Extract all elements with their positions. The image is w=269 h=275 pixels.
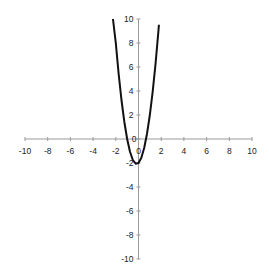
y-tick-label: -4 [126,182,134,192]
y-tick-label: -8 [126,230,134,240]
x-tick-label: 2 [159,146,164,156]
y-tick-label: -10 [121,254,134,264]
y-tick-label: 6 [129,62,134,72]
x-tick-label: -6 [67,146,75,156]
x-tick-label: 10 [247,146,257,156]
x-tick-label: -4 [89,146,97,156]
x-tick-label: -8 [44,146,52,156]
y-tick-label: -6 [126,206,134,216]
y-tick-label: 4 [129,86,134,96]
x-tick-label: 0 [136,146,141,156]
y-tick-label: 10 [124,14,134,24]
x-tick-label: -2 [112,146,120,156]
x-tick-label: -10 [19,146,32,156]
x-tick-label: 6 [204,146,209,156]
x-tick-label: 8 [227,146,232,156]
y-tick-label: 2 [129,110,134,120]
y-tick-label: 8 [129,38,134,48]
chart: -10-8-6-4-20246810-10-8-6-4-20246810 [0,0,269,275]
x-tick-label: 4 [182,146,187,156]
y-tick-label: 0 [132,134,137,144]
